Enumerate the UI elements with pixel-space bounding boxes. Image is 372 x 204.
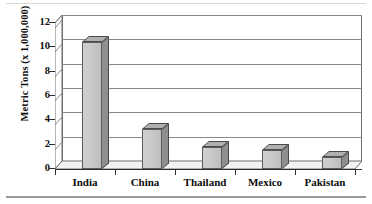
bar-front-face — [202, 147, 222, 169]
x-axis-tick-label: India — [72, 176, 97, 188]
bar-front-face — [322, 157, 342, 169]
y-axis-tick-labels: 024681012 — [28, 15, 50, 169]
chart-figure: Metric Tons (x 1,000,000) 024681012 — [0, 0, 372, 204]
x-axis-tick-label: China — [131, 176, 160, 188]
y-axis-tick-label: 8 — [28, 65, 50, 76]
y-axis-tick-label: 10 — [28, 41, 50, 52]
x-axis-tick-mark — [115, 169, 116, 175]
bar-series — [55, 15, 362, 169]
x-axis-tick-mark — [355, 169, 356, 175]
bar-side-face — [162, 123, 169, 169]
bar-front-face — [142, 129, 162, 169]
y-axis-tick-label: 0 — [28, 163, 50, 174]
y-axis-tick-label: 6 — [28, 90, 50, 101]
bar — [262, 150, 282, 169]
bar — [202, 147, 222, 169]
x-axis-tick-labels: IndiaChinaThailandMexicoPakistan — [55, 176, 362, 192]
bar-chart: Metric Tons (x 1,000,000) 024681012 — [0, 0, 372, 204]
bar-side-face — [102, 37, 109, 169]
bar-front-face — [82, 42, 102, 169]
bar — [142, 129, 162, 169]
x-axis-tick-label: Thailand — [184, 176, 227, 188]
y-axis-tick-label: 12 — [28, 17, 50, 28]
x-axis-tick-mark — [55, 169, 56, 175]
y-axis-tick-label: 4 — [28, 114, 50, 125]
y-axis-tick-label: 2 — [28, 138, 50, 149]
bar-side-face — [282, 144, 289, 169]
bar — [322, 157, 342, 169]
x-axis-tick-label: Pakistan — [305, 176, 346, 188]
x-axis-tick-mark — [235, 169, 236, 175]
x-axis-tick-marks — [55, 169, 362, 176]
bar-front-face — [262, 150, 282, 169]
bar — [82, 42, 102, 169]
x-axis-tick-mark — [295, 169, 296, 175]
bar-side-face — [222, 141, 229, 169]
x-axis-tick-mark — [175, 169, 176, 175]
x-axis-tick-label: Mexico — [248, 176, 282, 188]
